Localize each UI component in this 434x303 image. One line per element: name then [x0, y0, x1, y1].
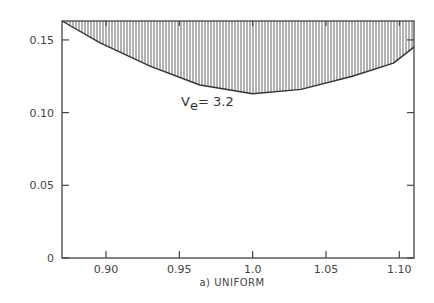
annotation-v: V: [181, 94, 190, 109]
chart-caption: a) UNIFORM: [199, 277, 264, 288]
hatched-region: [62, 21, 414, 94]
x-tick-label: 1.05: [314, 263, 339, 276]
x-tick-label: 1.0: [244, 263, 262, 276]
x-tick-label: 1.10: [387, 263, 412, 276]
y-tick-label: 0: [47, 252, 54, 265]
annotation-value: = 3.2: [198, 94, 234, 109]
x-tick-label: 0.90: [94, 263, 119, 276]
annotation-subscript: e: [190, 98, 198, 113]
y-tick-label: 0.05: [30, 179, 55, 192]
chart: 00.050.100.150.900.951.01.051.10a) UNIFO…: [0, 0, 434, 303]
y-tick-label: 0.10: [30, 107, 55, 120]
y-tick-label: 0.15: [30, 34, 55, 47]
x-tick-label: 0.95: [167, 263, 192, 276]
